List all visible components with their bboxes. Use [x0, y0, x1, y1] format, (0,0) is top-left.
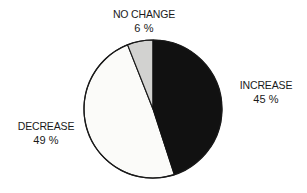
pie-label-no-change-name: NO CHANGE — [84, 8, 204, 20]
pie-label-decrease-name: DECREASE — [4, 120, 88, 132]
pie-label-increase: INCREASE 45 % — [228, 79, 304, 106]
pie-label-no-change: NO CHANGE 6 % — [84, 8, 204, 35]
pie-label-increase-value: 45 % — [228, 93, 304, 106]
pie-label-increase-name: INCREASE — [228, 79, 304, 91]
pie-label-decrease: DECREASE 49 % — [4, 120, 88, 147]
pie-label-no-change-value: 6 % — [84, 22, 204, 35]
pie-label-decrease-value: 49 % — [4, 134, 88, 147]
pie-chart-figure: NO CHANGE 6 % INCREASE 45 % DECREASE 49 … — [0, 0, 307, 193]
